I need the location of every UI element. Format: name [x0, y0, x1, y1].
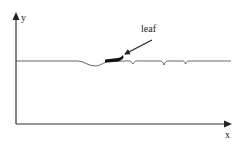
surface-curve [16, 61, 231, 66]
y-axis-arrow-icon [13, 12, 20, 20]
leaf-surface-diagram: y x leaf [0, 0, 245, 145]
x-axis-label: x [225, 129, 230, 140]
x-axis-arrow-icon [224, 121, 232, 128]
y-axis: y [13, 12, 27, 124]
leaf-pointer-arrow-icon [125, 40, 152, 54]
y-axis-label: y [21, 12, 26, 23]
leaf-label: leaf [141, 23, 157, 34]
x-axis: x [16, 121, 232, 141]
